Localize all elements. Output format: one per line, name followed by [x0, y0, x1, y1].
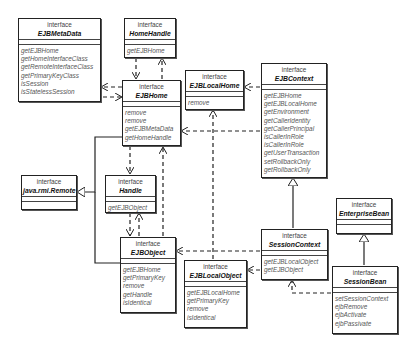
operation: getEJBHome — [123, 266, 173, 274]
class-ejbcontext[interactable]: interface EJBContext getEJBHome getEJBLo… — [261, 63, 327, 178]
stereotype-label: interface — [338, 201, 390, 209]
operation: remove — [125, 117, 178, 125]
dep-sessionbean-to-sessioncontext — [292, 280, 331, 293]
class-header: interface EnterpriseBean — [337, 199, 391, 220]
class-header: interface EJBObject — [121, 238, 175, 259]
operation: getEJBHome — [264, 92, 324, 100]
operation: isCallerInRole — [264, 141, 324, 149]
operations-compartment — [337, 225, 391, 230]
operations-compartment: getEJBLocalHome getPrimaryKey remove isI… — [185, 287, 246, 324]
class-header: interface Handle — [106, 176, 155, 197]
operation: getHandle — [123, 291, 173, 299]
operation: remove — [188, 99, 241, 107]
class-header: interface java.rmi.Remote — [22, 176, 76, 197]
operation: getEJBLocalObject — [264, 258, 325, 266]
operations-compartment: remove — [186, 97, 243, 109]
operation: setRollbackOnly — [264, 158, 324, 166]
operation: getPrimaryKey — [187, 297, 244, 305]
operation: setSessionContext — [335, 295, 395, 303]
operations-compartment: getEJBLocalObject getEJBObject — [262, 256, 327, 276]
operation: isCallerInRole — [264, 133, 324, 141]
operations-compartment: getEJBHome getHomeInterfaceClass getRemo… — [19, 45, 100, 98]
operation: getCallerIdentity — [264, 117, 324, 125]
class-header: interface EJBLocalHome — [186, 71, 243, 92]
stereotype-label: interface — [334, 269, 396, 277]
operations-compartment: setSessionContext ejbRemove ejbActivate … — [333, 293, 397, 330]
operations-compartment: getEJBHome getEJBLocalHome getEnvironmen… — [262, 90, 326, 176]
stereotype-label: interface — [126, 21, 174, 29]
operation: getEJBLocalHome — [187, 289, 244, 297]
operation: getUserTransaction — [264, 149, 324, 157]
class-ejbmetadata[interactable]: interface EJBMetaData getEJBHome getHome… — [18, 18, 101, 102]
class-ejbobject[interactable]: interface EJBObject getEJBHome getPrimar… — [120, 237, 176, 313]
operation: getEJBHome — [127, 47, 173, 55]
class-header: interface EJBHome — [123, 81, 180, 102]
operation: getRemoteInterfaceClass — [21, 63, 98, 71]
operation: getCallerPrincipal — [264, 125, 324, 133]
operation: ejbActivate — [335, 311, 395, 319]
class-name: EJBObject — [122, 248, 174, 257]
class-enterprisebean[interactable]: interface EnterpriseBean — [336, 198, 392, 234]
class-name: EJBLocalObject — [186, 271, 245, 280]
operation: getEJBObject — [108, 204, 153, 212]
operation: getPrimaryKey — [123, 274, 173, 282]
operation: isSession — [21, 80, 98, 88]
class-ejblocalhome[interactable]: interface EJBLocalHome remove — [185, 70, 244, 110]
class-name: java.rmi.Remote — [23, 186, 75, 195]
operation: remove — [123, 282, 173, 290]
operation: isIdentical — [123, 299, 173, 307]
class-name: Handle — [107, 186, 154, 195]
class-name: EJBLocalHome — [187, 81, 242, 90]
stereotype-label: interface — [263, 232, 326, 240]
operations-compartment: getEJBObject — [106, 202, 155, 214]
operation: remove — [187, 305, 244, 313]
operation: isIdentical — [187, 314, 244, 322]
stereotype-label: interface — [122, 240, 174, 248]
class-name: EJBMetaData — [20, 29, 99, 38]
class-name: HomeHandle — [126, 29, 174, 38]
operation: getEJBMetaData — [125, 125, 178, 133]
class-ejblocalobject[interactable]: interface EJBLocalObject getEJBLocalHome… — [184, 260, 247, 328]
class-java-rmi-remote[interactable]: interface java.rmi.Remote — [21, 175, 77, 210]
operation: remove — [125, 109, 178, 117]
operation: isStatelessSession — [21, 88, 98, 96]
class-name: EJBContext — [263, 74, 325, 83]
operation: getHomeHandle — [125, 134, 178, 142]
stereotype-label: interface — [187, 73, 242, 81]
class-sessionbean[interactable]: interface SessionBean setSessionContext … — [332, 266, 398, 334]
operation: getRollbackOnly — [264, 166, 324, 174]
class-name: EnterpriseBean — [338, 209, 390, 218]
class-header: interface EJBLocalObject — [185, 261, 246, 282]
operation: ejbRemove — [335, 303, 395, 311]
stereotype-label: interface — [124, 83, 179, 91]
class-sessioncontext[interactable]: interface SessionContext getEJBLocalObje… — [261, 229, 328, 280]
operations-compartment: getEJBHome getPrimaryKey remove getHandl… — [121, 264, 175, 309]
class-name: EJBHome — [124, 91, 179, 100]
operation: getEJBObject — [264, 266, 325, 274]
class-header: interface HomeHandle — [125, 19, 175, 40]
stereotype-label: interface — [23, 178, 75, 186]
class-header: interface SessionContext — [262, 230, 327, 251]
operations-compartment: remove remove getEJBMetaData getHomeHand… — [123, 107, 180, 144]
operation: ejbPassivate — [335, 320, 395, 328]
operation: getEJBLocalHome — [264, 100, 324, 108]
operations-compartment — [22, 202, 76, 207]
class-header: interface SessionBean — [333, 267, 397, 288]
class-header: interface EJBMetaData — [19, 19, 100, 40]
operation: getHomeInterfaceClass — [21, 55, 98, 63]
operation: getEnvironment — [264, 108, 324, 116]
operation: getEJBHome — [21, 47, 98, 55]
class-header: interface EJBContext — [262, 64, 326, 85]
stereotype-label: interface — [263, 66, 325, 74]
class-ejbhome[interactable]: interface EJBHome remove remove getEJBMe… — [122, 80, 181, 146]
class-name: SessionBean — [334, 277, 396, 286]
stereotype-label: interface — [107, 178, 154, 186]
operations-compartment: getEJBHome — [125, 45, 175, 57]
class-name: SessionContext — [263, 240, 326, 249]
operation: getPrimaryKeyClass — [21, 72, 98, 80]
stereotype-label: interface — [20, 21, 99, 29]
stereotype-label: interface — [186, 263, 245, 271]
class-homehandle[interactable]: interface HomeHandle getEJBHome — [124, 18, 176, 58]
class-handle[interactable]: interface Handle getEJBObject — [105, 175, 156, 213]
